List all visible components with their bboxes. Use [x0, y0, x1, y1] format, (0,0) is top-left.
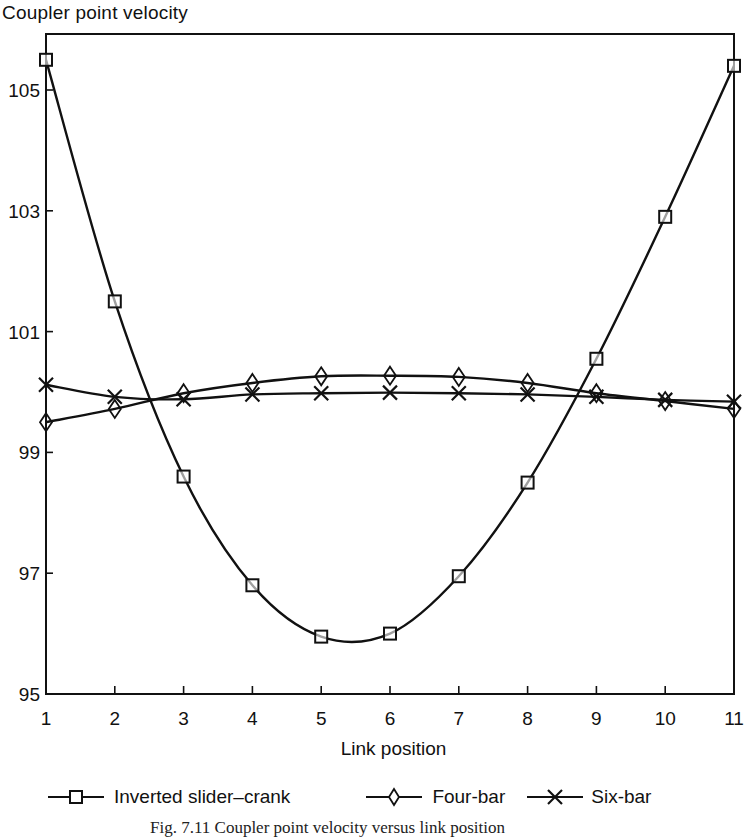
- x-tick-label: 2: [110, 708, 121, 729]
- legend-label: Inverted slider–crank: [114, 786, 290, 808]
- legend-item-six-bar: Six-bar: [525, 786, 651, 808]
- x-tick-label: 1: [41, 708, 52, 729]
- x-tick-label: 10: [655, 708, 676, 729]
- legend-item-four-bar: Four-bar: [364, 786, 505, 808]
- x-tick-label: 3: [178, 708, 189, 729]
- figure-caption: Fig. 7.11 Coupler point velocity versus …: [150, 818, 505, 838]
- series-inverted-slider-crank-line: [46, 60, 734, 642]
- square-marker-icon: [40, 54, 52, 66]
- square-marker-icon: [590, 353, 602, 365]
- y-tick-label: 95: [19, 684, 40, 705]
- y-tick-label: 97: [19, 563, 40, 584]
- y-tick-label: 103: [8, 201, 40, 222]
- square-marker-icon: [728, 60, 740, 72]
- chart-legend: Inverted slider–crank Four-bar Six-bar: [46, 786, 651, 808]
- square-marker-icon: [659, 211, 671, 223]
- x-axis-title: Link position: [0, 738, 747, 760]
- diamond-marker-icon: [364, 787, 424, 807]
- square-marker-icon: [178, 471, 190, 483]
- y-tick-label: 99: [19, 442, 40, 463]
- y-tick-label: 105: [8, 80, 40, 101]
- legend-label: Four-bar: [432, 786, 505, 808]
- x-tick-label: 9: [591, 708, 602, 729]
- plot-frame: [46, 34, 734, 694]
- square-marker-icon: [246, 579, 258, 591]
- x-tick-label: 7: [454, 708, 465, 729]
- line-chart: 9597991011031051234567891011: [0, 0, 747, 760]
- x-tick-label: 4: [247, 708, 258, 729]
- square-marker-icon: [522, 477, 534, 489]
- x-tick-label: 6: [385, 708, 396, 729]
- legend-label: Six-bar: [591, 786, 651, 808]
- square-marker-icon: [315, 631, 327, 643]
- square-marker-icon: [453, 570, 465, 582]
- x-tick-label: 8: [522, 708, 533, 729]
- x-marker-icon: [525, 787, 585, 807]
- square-marker-icon: [384, 628, 396, 640]
- y-tick-label: 101: [8, 322, 40, 343]
- legend-item-inverted-slider-crank: Inverted slider–crank: [46, 786, 290, 808]
- x-tick-label: 5: [316, 708, 327, 729]
- x-tick-label: 11: [724, 708, 744, 729]
- square-marker-icon: [46, 787, 106, 807]
- square-marker-icon: [109, 295, 121, 307]
